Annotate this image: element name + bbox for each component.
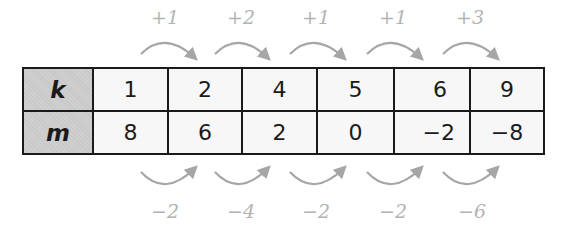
top-arrow-4 (367, 43, 421, 58)
bottom-arrow-3 (290, 168, 344, 184)
bottom-diff-5: −6 (458, 200, 486, 222)
top-arrow-1 (141, 43, 195, 58)
bottom-arrow-1 (141, 168, 195, 184)
top-arrow-2 (215, 43, 268, 58)
top-diff-2: +2 (227, 6, 255, 28)
difference-arrows (0, 0, 564, 234)
bottom-arrow-2 (215, 168, 268, 184)
bottom-arrow-4 (367, 168, 421, 184)
top-diff-1: +1 (151, 6, 179, 28)
top-arrow-3 (290, 43, 344, 58)
bottom-diff-1: −2 (151, 200, 179, 222)
top-arrow-5 (443, 43, 497, 58)
top-diff-5: +3 (456, 6, 484, 28)
ratio-table-diagram: k 1 2 4 5 6 9 m 8 6 2 0 −2 −8 (0, 0, 564, 234)
bottom-diff-3: −2 (302, 200, 330, 222)
top-diff-4: +1 (379, 6, 407, 28)
bottom-diff-2: −4 (227, 200, 255, 222)
bottom-diff-4: −2 (379, 200, 407, 222)
bottom-arrow-5 (443, 168, 497, 184)
top-diff-3: +1 (302, 6, 330, 28)
